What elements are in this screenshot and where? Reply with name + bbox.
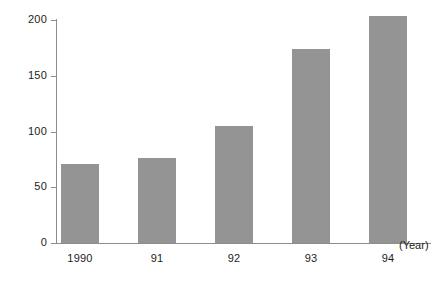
x-axis-tick-label: 1990: [50, 252, 110, 264]
plot-area: [57, 20, 430, 243]
y-axis-tick-label-text: 150: [3, 70, 47, 81]
x-axis-tick-label: 93: [281, 252, 341, 264]
bar: [215, 126, 253, 243]
y-axis-tick-label: 50: [0, 181, 47, 192]
x-axis-tick-label: 92: [204, 252, 264, 264]
x-axis-tick-label: 94: [358, 252, 418, 264]
bar: [369, 16, 407, 243]
bar: [61, 164, 99, 243]
y-axis-tick-mark: [51, 243, 57, 244]
x-axis-title: (Year): [399, 239, 429, 251]
y-axis-tick-label-text: 100: [3, 126, 47, 137]
y-axis-tick-label: 0: [0, 237, 47, 248]
y-axis-tick-label: 100: [0, 126, 47, 137]
y-axis-tick-label: 200: [0, 14, 47, 25]
x-axis-tick-label: 91: [127, 252, 187, 264]
y-axis-tick-label-text: 50: [3, 181, 47, 192]
bar: [292, 49, 330, 243]
x-axis-line: [56, 243, 431, 244]
y-axis-tick-label-text: 0: [3, 237, 47, 248]
bar: [138, 158, 176, 243]
y-axis-tick-label-text: 200: [3, 14, 47, 25]
y-axis-tick-label: 150: [0, 70, 47, 81]
bar-chart: 050100150200 199091929394 (Year): [0, 0, 447, 281]
